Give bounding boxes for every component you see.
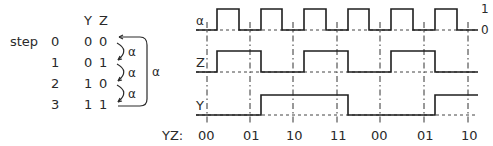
step-value: 0 <box>51 34 59 49</box>
transition-arc-1-2: α <box>117 64 136 81</box>
state-label: 01 <box>417 128 434 143</box>
state-label: 01 <box>243 128 260 143</box>
state-label: 00 <box>371 128 388 143</box>
z-value: 0 <box>99 76 107 91</box>
y-value: 0 <box>84 55 92 70</box>
level-low-label: 0 <box>481 23 489 37</box>
timing-diagram: α 1 0 Z Y YZ: 00 01 10 11 00 01 10 <box>161 2 489 143</box>
y-value: 1 <box>84 76 92 91</box>
step-label: step <box>10 34 38 49</box>
state-axis: YZ: 00 01 10 11 00 01 10 <box>161 128 478 143</box>
step-value: 3 <box>51 97 59 112</box>
signal-label: Y <box>195 98 204 113</box>
transition-label: α <box>128 66 136 80</box>
y-value: 1 <box>84 97 92 112</box>
signal-label: α <box>196 14 204 28</box>
state-diagram: step Y Z 0 0 0 1 0 1 2 1 0 3 1 1 α <box>0 0 493 146</box>
state-label: 11 <box>330 128 347 143</box>
step-value: 1 <box>51 55 59 70</box>
transition-label: α <box>128 45 136 59</box>
transition-arc-2-3: α <box>117 85 136 102</box>
signal-label: Z <box>196 55 205 70</box>
state-label: 10 <box>461 128 478 143</box>
state-label: 00 <box>198 128 215 143</box>
table-row: 2 1 0 <box>51 76 107 91</box>
wrap-label: α <box>152 65 160 79</box>
signal-alpha: α 1 0 <box>196 2 489 37</box>
y-value: 0 <box>84 34 92 49</box>
level-high-label: 1 <box>481 2 489 16</box>
state-table: step Y Z 0 0 0 1 0 1 2 1 0 3 1 1 α <box>10 13 160 112</box>
step-value: 2 <box>51 76 59 91</box>
transition-label: α <box>128 87 136 101</box>
state-label: 10 <box>286 128 303 143</box>
axis-label: YZ: <box>161 128 183 143</box>
table-row: 1 0 1 <box>51 55 107 70</box>
transition-arc-0-1: α <box>117 43 136 60</box>
wrap-arrow: α <box>118 35 160 106</box>
header-z: Z <box>99 13 108 28</box>
z-value: 0 <box>99 34 107 49</box>
state-markers <box>207 22 468 124</box>
table-row: 3 1 1 <box>51 97 107 112</box>
table-row: 0 0 0 <box>51 34 107 49</box>
header-y: Y <box>83 13 92 28</box>
z-value: 1 <box>99 55 107 70</box>
z-value: 1 <box>99 97 107 112</box>
